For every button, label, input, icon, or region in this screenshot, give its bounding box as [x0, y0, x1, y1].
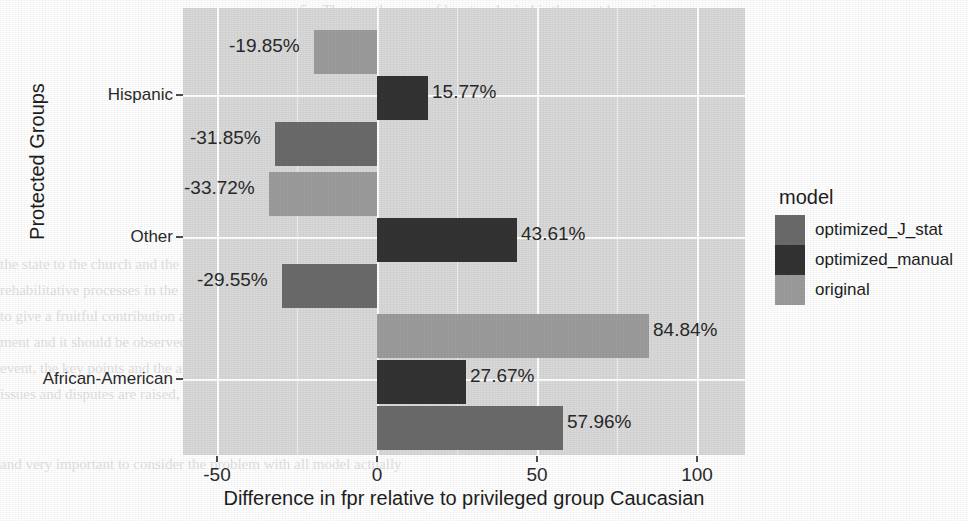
bar-value-label: -31.85% [190, 128, 261, 147]
x-tick-label-50: 50 [526, 464, 547, 486]
bar-value-label: -19.85% [229, 36, 300, 55]
legend-swatch-icon [775, 215, 805, 245]
x-tick-mark-100 [696, 456, 698, 462]
x-tick-label--50: -50 [203, 464, 230, 486]
legend-item-original[interactable]: original [775, 275, 960, 305]
bar-african-american-optimized-manual [377, 360, 466, 404]
bar-hispanic-original [314, 30, 378, 74]
x-tick-label-0: 0 [372, 464, 383, 486]
bar-other-optimized-j-stat [282, 264, 377, 308]
bar-other-optimized-manual [377, 218, 517, 262]
bar-value-label: 15.77% [432, 82, 496, 101]
bar-value-label: 84.84% [653, 320, 717, 339]
bar-other-original [269, 172, 377, 216]
y-tick-mark-hispanic [176, 94, 183, 96]
gridline-x-100 [697, 8, 699, 455]
legend: model optimized_J_stat optimized_manual … [775, 186, 960, 305]
bar-value-label: 43.61% [521, 224, 585, 243]
x-tick-mark--50 [216, 456, 218, 462]
gridline-x--50 [217, 8, 219, 455]
y-axis-title: Protected Groups [26, 47, 49, 277]
x-tick-mark-0 [376, 456, 378, 462]
y-tick-label-african-american: African-American [0, 369, 173, 389]
gridline-x--25 [297, 8, 298, 455]
x-tick-label-100: 100 [681, 464, 713, 486]
bar-african-american-optimized-j-stat [377, 406, 563, 450]
y-tick-mark-african-american [176, 378, 183, 380]
plot-panel [183, 8, 745, 455]
bar-chart: -19.85% 15.77% -31.85% -33.72% 43.61% -2… [0, 0, 968, 521]
legend-swatch-icon [775, 275, 805, 305]
legend-item-label: optimized_manual [815, 250, 953, 270]
x-axis-title: Difference in fpr relative to privileged… [183, 487, 745, 510]
bar-hispanic-optimized-manual [377, 76, 428, 120]
bar-value-label: 57.96% [567, 412, 631, 431]
x-tick-mark-50 [536, 456, 538, 462]
legend-item-label: optimized_J_stat [815, 220, 943, 240]
bar-hispanic-optimized-j-stat [275, 122, 377, 166]
bar-value-label: 27.67% [470, 366, 534, 385]
y-tick-mark-other [176, 236, 183, 238]
legend-title: model [779, 186, 960, 209]
legend-swatch-icon [775, 245, 805, 275]
gridline-x-75 [617, 8, 618, 455]
bar-value-label: -29.55% [197, 270, 268, 289]
legend-item-optimized-j-stat[interactable]: optimized_J_stat [775, 215, 960, 245]
bar-value-label: -33.72% [184, 178, 255, 197]
legend-item-label: original [815, 280, 870, 300]
bar-african-american-original [377, 314, 649, 358]
legend-item-optimized-manual[interactable]: optimized_manual [775, 245, 960, 275]
